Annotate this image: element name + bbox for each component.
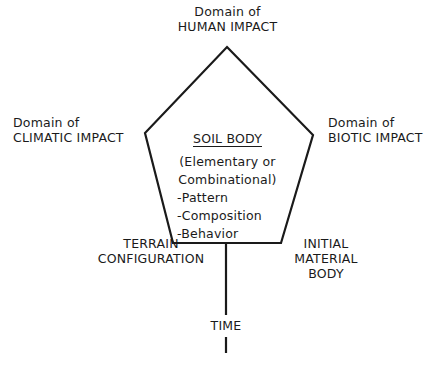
- initial-material-line1: INITIAL: [290, 236, 362, 251]
- soil-body-center-text: SOIL BODY (Elementary or Combinational) …: [160, 131, 295, 243]
- soil-property-pattern: -Pattern: [177, 189, 295, 207]
- terrain-line1: TERRAIN: [95, 236, 207, 251]
- soil-body-subtitle-2: Combinational): [160, 171, 295, 189]
- human-impact-label: Domain of HUMAN IMPACT: [170, 4, 285, 34]
- climatic-impact-label: Domain of CLIMATIC IMPACT: [13, 115, 124, 145]
- initial-material-line2: MATERIAL: [290, 251, 362, 266]
- climatic-impact-line2: CLIMATIC IMPACT: [13, 130, 124, 145]
- initial-material-line3: BODY: [290, 266, 362, 281]
- climatic-impact-line1: Domain of: [13, 115, 124, 130]
- biotic-impact-line2: BIOTIC IMPACT: [328, 130, 423, 145]
- soil-body-title: SOIL BODY: [160, 131, 295, 146]
- biotic-impact-line1: Domain of: [328, 115, 423, 130]
- soil-body-subtitle-1: (Elementary or: [160, 153, 295, 171]
- initial-material-body-label: INITIAL MATERIAL BODY: [290, 236, 362, 281]
- biotic-impact-label: Domain of BIOTIC IMPACT: [328, 115, 423, 145]
- time-label: TIME: [200, 318, 252, 333]
- human-impact-line2: HUMAN IMPACT: [170, 19, 285, 34]
- soil-property-composition: -Composition: [177, 207, 295, 225]
- terrain-line2: CONFIGURATION: [95, 251, 207, 266]
- terrain-configuration-label: TERRAIN CONFIGURATION: [95, 236, 207, 266]
- human-impact-line1: Domain of: [170, 4, 285, 19]
